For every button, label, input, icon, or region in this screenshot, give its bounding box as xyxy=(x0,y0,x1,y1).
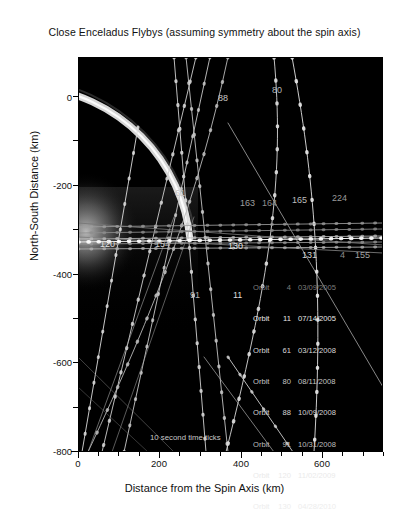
y-tick-label: -600 xyxy=(53,357,72,368)
legend-orbit-number: 61 xyxy=(270,346,291,356)
legend-orbit-word: Orbit xyxy=(253,440,270,450)
legend-orbit-number: 11 xyxy=(270,314,291,324)
legend-orbit-number: 80 xyxy=(270,377,291,387)
legend-row: Orbit6103/12/2008 xyxy=(253,346,336,356)
legend-orbit-number: 91 xyxy=(270,440,291,450)
y-tick-label: -800 xyxy=(53,446,72,457)
legend-orbit-number: 4 xyxy=(270,283,291,293)
legend-orbit-date: 03/09/2005 xyxy=(291,283,336,293)
figure-title: Close Enceladus Flybys (assuming symmetr… xyxy=(0,26,409,38)
legend-orbit-word: Orbit xyxy=(253,283,270,293)
legend-orbit-word: Orbit xyxy=(253,502,270,511)
y-tick-label: -200 xyxy=(53,180,72,191)
x-tick-label: 0 xyxy=(75,458,80,469)
y-axis-label: North-South Distance (km) xyxy=(28,76,40,316)
x-axis: 0 200 400 600 xyxy=(78,458,383,474)
legend-row: Orbit8810/09/2008 xyxy=(253,408,336,418)
legend-orbit-word: Orbit xyxy=(253,408,270,418)
x-tick-label: 200 xyxy=(151,458,167,469)
plot-frame xyxy=(78,57,383,452)
legend-orbit-date: 07/14/2005 xyxy=(291,314,336,324)
legend-orbit-word: Orbit xyxy=(253,314,270,324)
legend-row: Orbit403/09/2005 xyxy=(253,283,336,293)
x-axis-label: Distance from the Spin Axis (km) xyxy=(0,482,409,494)
y-tick-label: -400 xyxy=(53,269,72,280)
legend-orbit-number: 88 xyxy=(270,408,291,418)
x-tick-label: 600 xyxy=(314,458,330,469)
y-tick-label: 0 xyxy=(67,92,72,103)
legend-orbit-date: 10/09/2008 xyxy=(291,408,336,418)
legend-row: Orbit8008/11/2008 xyxy=(253,377,336,387)
legend-orbit-word: Orbit xyxy=(253,377,270,387)
x-tick-label: 400 xyxy=(233,458,249,469)
legend-row: Orbit9110/31/2008 xyxy=(253,440,336,450)
legend-row: Orbit13004/28/2010 xyxy=(253,502,336,511)
plot-area: 88 80 61 163 164 165 224 120 154 130 131… xyxy=(78,57,383,452)
time-tick-annotation: 10 second time ticks xyxy=(150,433,221,442)
legend-orbit-date: 10/31/2008 xyxy=(291,440,336,450)
figure-root: Close Enceladus Flybys (assuming symmetr… xyxy=(0,0,409,511)
legend-orbit-date: 03/12/2008 xyxy=(291,346,336,356)
legend-orbit-date: 08/11/2008 xyxy=(291,377,335,387)
legend-row: Orbit1107/14/2005 xyxy=(253,314,336,324)
legend-orbit-number: 130 xyxy=(270,502,291,511)
legend-orbit-date: 04/28/2010 xyxy=(291,502,336,511)
legend-orbit-word: Orbit xyxy=(253,346,270,356)
